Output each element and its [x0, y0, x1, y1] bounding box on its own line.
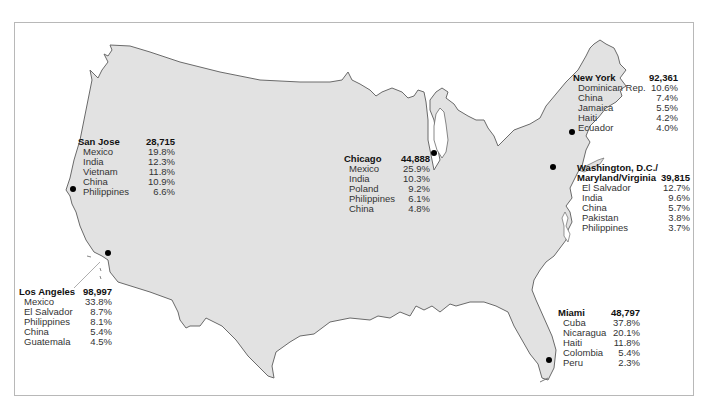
- new-york-callout: New York92,361 Dominican Rep.10.6% China…: [573, 73, 678, 133]
- los-angeles-leader-line: [74, 262, 100, 288]
- los-angeles-marker[interactable]: [105, 250, 111, 256]
- chicago-marker[interactable]: [431, 150, 437, 156]
- origin-country: Philippines: [582, 223, 628, 233]
- origin-row: Philippines6.6%: [78, 187, 175, 197]
- washington-callout: Washington, D.C./ Maryland/Virginia39,81…: [577, 163, 690, 233]
- miami-marker[interactable]: [546, 357, 552, 363]
- origin-pct: 3.7%: [668, 223, 690, 233]
- origin-row: Guatemala4.5%: [19, 337, 112, 347]
- san-jose-callout: San Jose28,715 Mexico19.8% India12.3% Vi…: [78, 137, 175, 197]
- chicago-callout: Chicago44,888 Mexico25.9% India10.3% Pol…: [344, 154, 430, 214]
- origin-pct: 6.6%: [153, 187, 175, 197]
- san-jose-marker[interactable]: [70, 186, 76, 192]
- los-angeles-callout: Los Angeles98,997 Mexico33.8% El Salvado…: [19, 287, 112, 347]
- origin-country: Philippines: [83, 187, 129, 197]
- origin-row: Philippines3.7%: [577, 223, 690, 233]
- origin-country: China: [349, 204, 374, 214]
- origin-row: Peru2.3%: [558, 358, 640, 368]
- washington-marker[interactable]: [550, 164, 556, 170]
- origin-pct: 4.8%: [408, 204, 430, 214]
- origin-pct: 4.0%: [656, 123, 678, 133]
- origin-pct: 2.3%: [618, 358, 640, 368]
- origin-country: Guatemala: [24, 337, 70, 347]
- origin-row: China4.8%: [344, 204, 430, 214]
- miami-callout: Miami48,797 Cuba37.8% Nicaragua20.1% Hai…: [558, 308, 640, 368]
- origin-country: Ecuador: [578, 123, 613, 133]
- origin-row: Ecuador4.0%: [573, 123, 678, 133]
- origin-pct: 4.5%: [90, 337, 112, 347]
- origin-country: Peru: [563, 358, 583, 368]
